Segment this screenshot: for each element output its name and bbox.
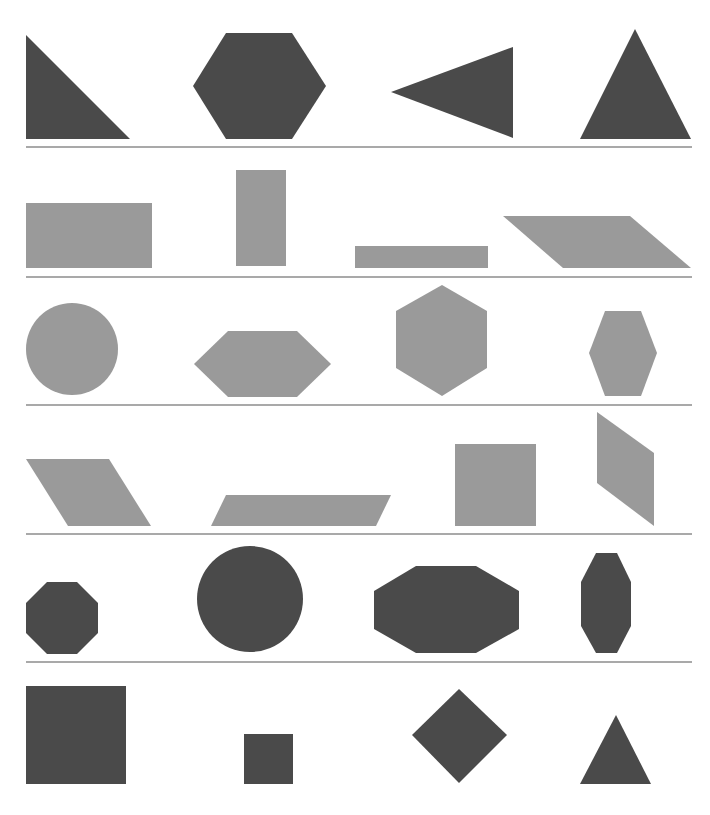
shape-row-6 (26, 686, 651, 784)
shape-grid (26, 29, 691, 784)
shape-row-2 (26, 170, 691, 268)
shape-row-1 (26, 29, 691, 139)
small-square-shape (244, 734, 293, 784)
wide-rectangle-shape (26, 203, 152, 268)
parallelogram-shape (503, 216, 691, 268)
small-triangle-shape (580, 715, 651, 784)
small-hexagon-shape (589, 311, 657, 396)
slanted-parallelogram-shape (26, 459, 151, 526)
left-pointing-triangle-shape (391, 47, 513, 138)
flat-parallelogram-shape (211, 495, 391, 526)
shapes-canvas (0, 0, 710, 815)
right-triangle-shape (26, 35, 130, 139)
shape-row-5 (26, 546, 631, 654)
vertical-parallelogram-shape (597, 412, 654, 526)
hexagon-shape (193, 33, 326, 139)
octagon-shape (26, 582, 98, 654)
pointy-hexagon-shape (396, 285, 487, 396)
diamond-shape (412, 689, 507, 783)
tall-rectangle-shape (236, 170, 286, 266)
square-shape (455, 444, 536, 526)
large-circle-shape (197, 546, 303, 652)
shape-row-4 (26, 412, 654, 526)
shape-row-3 (26, 285, 657, 397)
equilateral-triangle-shape (580, 29, 691, 139)
wide-octagon-shape (374, 566, 519, 653)
thin-rectangle-shape (355, 246, 488, 268)
flat-hexagon-shape (194, 331, 331, 397)
large-square-shape (26, 686, 126, 784)
circle-shape (26, 303, 118, 395)
tall-octagon-shape (581, 553, 631, 653)
